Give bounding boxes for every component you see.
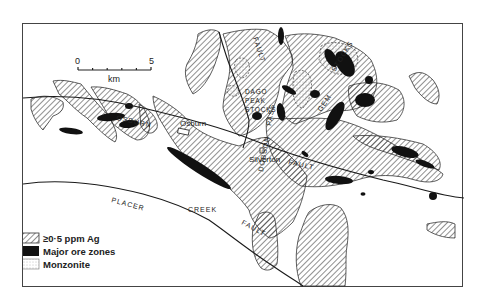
creek-label: CREEK: [188, 206, 217, 213]
legend-swatch-ore: [23, 246, 39, 256]
dago-peak-label-line1: DAGO: [245, 88, 267, 95]
scale-bar: [78, 67, 151, 70]
legend-swatch-hatch: [23, 233, 39, 243]
dago-peak-label-line2: PEAK: [245, 97, 266, 104]
scale-start-label: 0: [75, 56, 80, 66]
scale-unit-label: km: [108, 74, 120, 84]
legend-label-monzonite: Monzonite: [43, 259, 90, 270]
scale-end-label: 5: [149, 56, 154, 66]
legend-swatch-monzonite: [23, 259, 39, 269]
osburn-town-label: Osburn: [180, 119, 206, 128]
legend-label-ore: Major ore zones: [43, 246, 115, 257]
legend: ≥0·5 ppm Ag Major ore zones Monzonite: [23, 233, 115, 270]
geological-map: OSBURN FAULT PLACER CREEK FAULT DOBSON P…: [23, 24, 464, 288]
silverton-town-label: Silverton: [249, 155, 280, 164]
dago-peak-label-line3: STOCKS: [245, 106, 276, 113]
placer-label: PLACER: [111, 196, 146, 212]
legend-label-silver: ≥0·5 ppm Ag: [43, 233, 100, 244]
map-frame: OSBURN FAULT PLACER CREEK FAULT DOBSON P…: [22, 23, 463, 287]
